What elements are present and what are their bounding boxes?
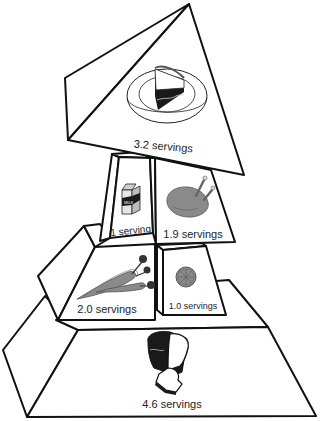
milk-carton-text: MILK bbox=[124, 200, 134, 205]
grains-servings-label: 4.6 servings bbox=[142, 398, 202, 410]
tier-fruit: 1.0 servings bbox=[157, 243, 226, 315]
food-pyramid-diagram: 4.6 servings 2.0 servings 1.0 servings bbox=[0, 0, 321, 421]
tier-fats-sweets: 3.2 servings bbox=[65, 4, 244, 175]
milk-carton-icon: MILK bbox=[122, 184, 140, 214]
orange-slice-icon bbox=[176, 267, 196, 287]
tier-milk: MILK 1 serving bbox=[100, 152, 153, 241]
meat-servings-label: 1.9 servings bbox=[163, 228, 223, 240]
tier-vegetables: 2.0 servings bbox=[38, 224, 155, 320]
fruit-servings-label: 1.0 servings bbox=[169, 301, 218, 311]
vegetables-servings-label: 2.0 servings bbox=[77, 303, 137, 315]
